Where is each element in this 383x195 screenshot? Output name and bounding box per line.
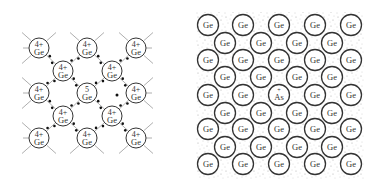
bond-stub-line (22, 78, 31, 86)
atom-symbol-label: Ge (82, 92, 92, 102)
ge-ion: Ge (215, 103, 236, 124)
ion-symbol-label: Ge (327, 142, 337, 152)
ion-symbol-label: Ge (274, 55, 284, 65)
free-electron-dot (116, 94, 119, 97)
ion-symbol-label: Ge (346, 124, 356, 134)
electron-dot (48, 55, 51, 58)
ion-symbol-label: Ge (203, 90, 213, 100)
ge-atom: 4+Ge (77, 128, 97, 148)
electron-dot (77, 57, 80, 60)
ion-symbol-label: Ge (310, 20, 320, 30)
atom-symbol-label: Ge (58, 70, 68, 80)
ge-ion: Ge (198, 119, 219, 140)
ge-atom: 4+Ge (29, 38, 49, 58)
ion-symbol-label: Ge (310, 55, 320, 65)
ge-ion: Ge (215, 33, 236, 54)
electron-dot (119, 104, 122, 107)
ion-symbol-label: Ge (203, 55, 213, 65)
atom-symbol-label: Ge (82, 137, 92, 147)
ge-ion: Ge (287, 103, 308, 124)
ge-ion: Ge (341, 119, 362, 140)
electron-dot (48, 100, 51, 103)
ge-ion: Ge (198, 50, 219, 71)
bond-stub-line (47, 33, 56, 41)
electron-dot (121, 77, 124, 80)
electron-dot (75, 84, 78, 87)
atom-symbol-label: Ge (131, 47, 141, 57)
ge-ion: Ge (322, 33, 343, 54)
ge-ion: Ge (269, 119, 290, 140)
as-ion: +As (269, 85, 290, 106)
ion-symbol-label: Ge (274, 159, 284, 169)
electron-dot (121, 122, 124, 125)
ion-symbol-label: Ge (220, 108, 230, 118)
atom-symbol-label: Ge (131, 92, 141, 102)
electron-dot (126, 102, 129, 105)
bond-stub-line (22, 101, 31, 109)
electron-dot (51, 62, 54, 65)
ge-ion: Ge (233, 15, 254, 36)
ge-atom: 4+Ge (53, 61, 73, 81)
ge-ion: Ge (269, 50, 290, 71)
electron-dot (126, 57, 129, 60)
ge-atom: 4+Ge (53, 106, 73, 126)
ion-symbol-label: Ge (346, 55, 356, 65)
ge-atom: 4+Ge (29, 128, 49, 148)
ion-symbol-label: Ge (310, 90, 320, 100)
ge-atom: 4+Ge (77, 38, 97, 58)
ion-symbol-label: Ge (220, 72, 230, 82)
ge-ion: Ge (233, 154, 254, 175)
atom-symbol-label: Ge (34, 137, 44, 147)
covalent-lattice-panel: 4+Ge4+Ge4+Ge4+Ge4+Ge4+Ge5Ge4+Ge4+Ge4+Ge4… (22, 33, 153, 154)
electron-dot (53, 80, 56, 83)
ge-atom: 4+Ge (102, 106, 122, 126)
bond-stub-line (22, 146, 31, 154)
electron-dot (99, 62, 102, 65)
electron-dot (102, 125, 105, 128)
covalent-bond-line (119, 78, 128, 86)
ge-ion: Ge (198, 15, 219, 36)
ge-ion: Ge (341, 85, 362, 106)
atom-symbol-label: Ge (34, 47, 44, 57)
atom-symbol-label: Ge (82, 47, 92, 57)
ge-atom: 4+Ge (126, 38, 146, 58)
ion-symbol-label: Ge (346, 90, 356, 100)
ge-ion: Ge (198, 85, 219, 106)
ion-symbol-label: Ge (292, 38, 302, 48)
ge-ion: Ge (251, 33, 272, 54)
atom-symbol-label: Ge (58, 115, 68, 125)
electron-dot (77, 102, 80, 105)
atom-symbol-label: Ge (107, 70, 117, 80)
ge-atom: 4+Ge (126, 128, 146, 148)
ge-ion: Ge (233, 50, 254, 71)
electron-dot (70, 104, 73, 107)
bond-stub-line (144, 33, 153, 41)
electron-dot (102, 80, 105, 83)
electron-dot (124, 129, 127, 132)
covalent-bond-line (70, 78, 79, 86)
ion-symbol-label: Ge (310, 159, 320, 169)
electron-dot (53, 125, 56, 128)
electron-dot (97, 55, 100, 58)
ge-ion: Ge (287, 137, 308, 158)
ge-ion: Ge (305, 15, 326, 36)
ion-symbol-label: Ge (238, 55, 248, 65)
ge-ion: Ge (215, 67, 236, 88)
ge-atom: 4+Ge (126, 83, 146, 103)
bond-stub-line (22, 56, 31, 64)
electron-dot (75, 129, 78, 132)
ion-symbol-label: Ge (292, 72, 302, 82)
covalent-bond-line (119, 123, 128, 131)
ion-symbol-label: Ge (238, 90, 248, 100)
ion-symbol-label: Ge (238, 159, 248, 169)
bond-stub-line (144, 101, 153, 109)
ge-ion: Ge (215, 137, 236, 158)
ion-symbol-label: Ge (256, 38, 266, 48)
ge-ion: Ge (233, 85, 254, 106)
ion-lattice-panel: GeGeGeGeGeGeGeGeGeGeGeGeGeGeGeGeGeGeGeGe… (196, 12, 364, 179)
ion-symbol-label: Ge (274, 20, 284, 30)
semiconductor-doping-diagram: 4+Ge4+Ge4+Ge4+Ge4+Ge4+Ge5Ge4+Ge4+Ge4+Ge4… (0, 0, 383, 195)
bond-stub-line (95, 33, 104, 41)
bond-stub-line (22, 33, 31, 41)
electron-dot (51, 107, 54, 110)
